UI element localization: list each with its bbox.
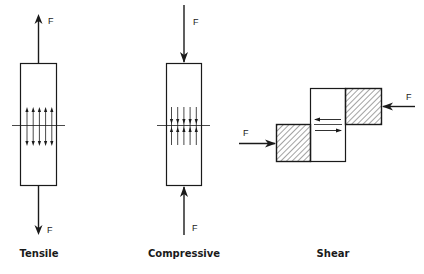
tensile-panel: F F Tensile	[12, 14, 65, 259]
compressive-top-force-label: F	[193, 17, 199, 27]
shear-center-block	[311, 89, 346, 162]
tensile-stress-arrow	[44, 107, 47, 146]
tensile-stress-arrow	[32, 107, 35, 146]
compressive-bottom-force-arrow	[180, 186, 188, 235]
shear-right-force-label: F	[406, 92, 412, 102]
shear-left-force-label: F	[243, 128, 249, 138]
tensile-bottom-force-arrow	[35, 186, 43, 235]
compressive-label: Compressive	[148, 248, 220, 259]
compressive-stress-arrow	[182, 107, 185, 145]
shear-right-hatched-block	[346, 89, 382, 125]
tensile-bottom-force-label: F	[47, 225, 53, 235]
shear-left-hatched-block	[277, 125, 311, 162]
compressive-panel: F F Compressive	[148, 5, 220, 259]
compressive-stress-arrow	[189, 107, 192, 145]
compressive-top-force-arrow	[180, 5, 188, 63]
stress-diagram: F F Tensile F F Compressive	[0, 0, 424, 274]
tensile-specimen	[21, 64, 57, 186]
tensile-stress-arrow	[38, 107, 41, 146]
shear-left-force-arrow	[239, 140, 276, 148]
compressive-internal-arrows	[170, 107, 198, 145]
shear-panel: F F Shear	[239, 89, 415, 260]
compressive-bottom-force-label: F	[192, 223, 198, 233]
shear-right-force-arrow	[382, 103, 415, 111]
compressive-stress-arrow	[195, 107, 198, 145]
compressive-stress-arrow	[170, 107, 173, 145]
tensile-top-force-arrow	[35, 14, 43, 63]
tensile-stress-arrow	[50, 107, 53, 146]
tensile-label: Tensile	[20, 248, 59, 259]
tensile-top-force-label: F	[48, 16, 54, 26]
tensile-stress-arrow	[25, 107, 28, 146]
compressive-stress-arrow	[176, 107, 179, 145]
tensile-internal-arrows	[25, 107, 53, 146]
shear-label: Shear	[317, 248, 350, 259]
